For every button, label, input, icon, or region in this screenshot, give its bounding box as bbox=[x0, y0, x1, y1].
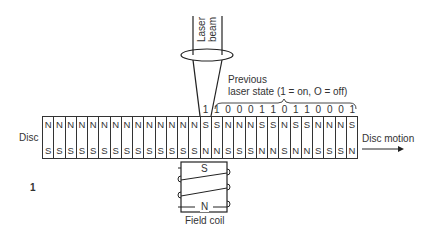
bit bbox=[76, 104, 87, 115]
bit: 1 bbox=[301, 104, 312, 115]
disc-cell: NS bbox=[245, 117, 256, 158]
disc-cell: SN bbox=[301, 117, 312, 158]
bottom-pole: S bbox=[313, 145, 323, 156]
bit bbox=[177, 104, 188, 115]
disc-cell: NS bbox=[155, 117, 166, 158]
bottom-pole: S bbox=[156, 145, 166, 156]
bit: 0 bbox=[313, 104, 324, 115]
laser-beam-label: Laser bbox=[197, 17, 207, 42]
bottom-pole: S bbox=[189, 145, 199, 156]
top-pole: N bbox=[99, 119, 109, 130]
top-pole: S bbox=[268, 119, 278, 130]
previous-label: Previous bbox=[228, 75, 267, 85]
disc-cell: NS bbox=[233, 117, 244, 158]
top-pole: N bbox=[54, 119, 64, 130]
disc-cell: NS bbox=[278, 117, 289, 158]
top-pole: S bbox=[302, 119, 312, 130]
top-pole: N bbox=[77, 119, 87, 130]
bit: 1 bbox=[256, 104, 267, 115]
disc-cell: NS bbox=[166, 117, 177, 158]
bottom-pole: S bbox=[66, 145, 76, 156]
top-pole: N bbox=[223, 119, 233, 130]
bottom-pole: N bbox=[268, 145, 278, 156]
disc-cell: NS bbox=[65, 117, 76, 158]
disc-cell: NS bbox=[143, 117, 154, 158]
beam-label: beam bbox=[208, 17, 218, 42]
bit bbox=[144, 104, 155, 115]
disc-cell: NS bbox=[323, 117, 334, 158]
top-pole: N bbox=[189, 119, 199, 130]
top-pole: N bbox=[234, 119, 244, 130]
bottom-pole: S bbox=[144, 145, 154, 156]
bit bbox=[121, 104, 132, 115]
figure-number: 1 bbox=[30, 183, 36, 193]
bottom-pole: N bbox=[212, 145, 222, 156]
coil-top-pole: S bbox=[201, 164, 208, 174]
top-pole: S bbox=[212, 119, 222, 130]
bottom-pole: S bbox=[178, 145, 188, 156]
bottom-pole: S bbox=[99, 145, 109, 156]
field-coil-label: Field coil bbox=[185, 216, 224, 226]
top-pole: N bbox=[178, 119, 188, 130]
bottom-pole: S bbox=[279, 145, 289, 156]
bottom-pole: S bbox=[122, 145, 132, 156]
bottom-pole: S bbox=[336, 145, 346, 156]
bit: 1 bbox=[347, 104, 358, 115]
bit bbox=[98, 104, 109, 115]
top-pole: N bbox=[167, 119, 177, 130]
top-pole: S bbox=[291, 119, 301, 130]
top-pole: N bbox=[313, 119, 323, 130]
bottom-pole: S bbox=[54, 145, 64, 156]
laser-state-label: laser state (1 = on, O = off) bbox=[228, 87, 347, 97]
disc-cell: NS bbox=[312, 117, 323, 158]
disc-cell: NS bbox=[42, 117, 53, 158]
top-pole: N bbox=[246, 119, 256, 130]
bottom-pole: S bbox=[111, 145, 121, 156]
laser-label: Laser bbox=[196, 17, 207, 42]
coil-bottom-pole: N bbox=[200, 202, 209, 212]
arrow-right-icon bbox=[398, 146, 404, 152]
disc-cell: NS bbox=[222, 117, 233, 158]
bit bbox=[65, 104, 76, 115]
disc-cell: SN bbox=[346, 117, 358, 158]
bit: 1 bbox=[211, 104, 222, 115]
disc-cell: SN bbox=[290, 117, 301, 158]
bottom-pole: N bbox=[201, 145, 211, 156]
bit: 1 bbox=[290, 104, 301, 115]
bit: 0 bbox=[234, 104, 245, 115]
bottom-pole: S bbox=[246, 145, 256, 156]
bottom-pole: S bbox=[43, 145, 53, 156]
disc-cell: NS bbox=[53, 117, 64, 158]
disc-cell: NS bbox=[121, 117, 132, 158]
top-pole: N bbox=[66, 119, 76, 130]
top-pole: N bbox=[279, 119, 289, 130]
bottom-pole: S bbox=[77, 145, 87, 156]
disc-cell: SN bbox=[267, 117, 278, 158]
disc-cell: SN bbox=[200, 117, 211, 158]
bit: 0 bbox=[223, 104, 234, 115]
bottom-pole: S bbox=[167, 145, 177, 156]
bottom-pole: S bbox=[223, 145, 233, 156]
disc-cell: NS bbox=[76, 117, 87, 158]
disc-label: Disc bbox=[19, 133, 38, 143]
bit bbox=[110, 104, 121, 115]
bottom-pole: N bbox=[291, 145, 301, 156]
bit: 0 bbox=[245, 104, 256, 115]
disc-cell: NS bbox=[110, 117, 121, 158]
bit bbox=[166, 104, 177, 115]
bit bbox=[155, 104, 166, 115]
disc-cell: NS bbox=[87, 117, 98, 158]
disc-cell: SN bbox=[211, 117, 222, 158]
bit bbox=[87, 104, 98, 115]
bit bbox=[42, 104, 53, 115]
bit: 1 bbox=[200, 104, 211, 115]
top-pole: S bbox=[257, 119, 267, 130]
bit-row: 11000110110001 bbox=[42, 104, 358, 115]
bottom-pole: N bbox=[347, 145, 357, 156]
disc-cell: NS bbox=[98, 117, 109, 158]
bottom-pole: S bbox=[88, 145, 98, 156]
disc-cell: NS bbox=[335, 117, 346, 158]
bottom-pole: N bbox=[302, 145, 312, 156]
top-pole: S bbox=[347, 119, 357, 130]
bottom-pole: S bbox=[234, 145, 244, 156]
